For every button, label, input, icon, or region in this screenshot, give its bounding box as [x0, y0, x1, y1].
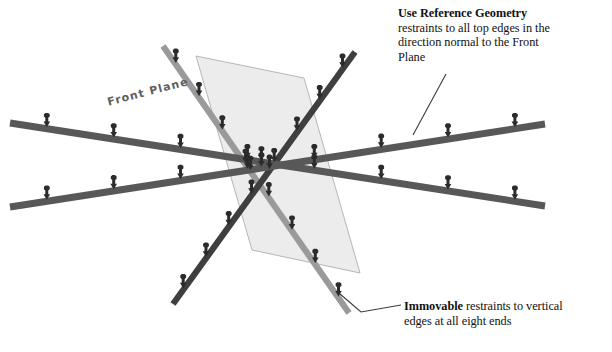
annotation-bottom-line2: edges at all eight ends [404, 314, 563, 329]
annotation-top-bold: Use Reference Geometry [398, 6, 527, 20]
annotation-bottom-rest: restraints to vertical [463, 299, 563, 313]
annotation-reference-geometry: Use Reference Geometry restraints to all… [398, 6, 550, 64]
annotation-bottom-bold: Immovable [404, 299, 463, 313]
annotation-top-line3: direction normal to the Front [398, 35, 550, 50]
annotation-immovable: Immovable restraints to vertical edges a… [404, 299, 563, 328]
annotation-top-line2: restraints to all top edges in the [398, 21, 550, 36]
diagram-canvas: Front Plane Use Reference Geometry restr… [0, 0, 612, 352]
annotation-top-line4: Plane [398, 50, 550, 65]
leader-line-top [413, 74, 446, 135]
